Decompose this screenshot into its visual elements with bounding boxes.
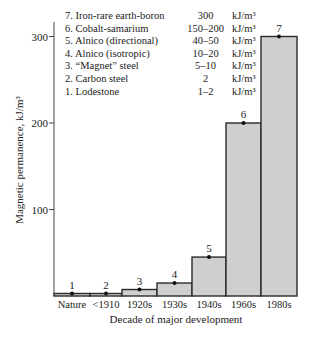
x-tick-label: 1940s [196, 299, 221, 310]
legend-item: 5. Alnico (directional) 40–50 kJ/m³ [65, 35, 272, 48]
bar-number-label: 2 [103, 279, 109, 291]
bar-number-label: 3 [137, 275, 143, 287]
bar-marker [207, 255, 211, 259]
bar [226, 123, 261, 296]
legend-label: 6. Cobalt-samarium [65, 23, 179, 36]
bar-marker [70, 292, 74, 296]
legend-item: 6. Cobalt-samarium 150–200 kJ/m³ [65, 23, 272, 36]
legend-unit: kJ/m³ [232, 73, 272, 86]
bar [192, 257, 226, 296]
legend-item: 4. Alnico (isotropic) 10–20 kJ/m³ [65, 48, 272, 61]
legend-item: 3. “Magnet” steel 5–10 kJ/m³ [65, 60, 272, 73]
legend-unit: kJ/m³ [232, 60, 272, 73]
x-tick-label: 1920s [127, 299, 152, 310]
x-tick-label: 1930s [162, 299, 187, 310]
legend-label: 1. Lodestone [65, 86, 179, 99]
legend-label: 4. Alnico (isotropic) [65, 48, 179, 61]
bar-number-label: 6 [241, 108, 247, 120]
bar-number-label: 5 [206, 242, 212, 254]
bar-marker [138, 288, 142, 292]
legend-item: 1. Lodestone 1–2 kJ/m³ [65, 86, 272, 99]
legend-unit: kJ/m³ [232, 35, 272, 48]
bar-marker [277, 35, 281, 39]
x-axis-label: Decade of major development [110, 313, 243, 325]
legend-range: 300 [179, 10, 232, 23]
bar-number-label: 7 [276, 22, 282, 34]
legend-range: 40–50 [179, 35, 232, 48]
legend-unit: kJ/m³ [232, 10, 272, 23]
legend-unit: kJ/m³ [232, 23, 272, 36]
x-tick-label: 1960s [231, 299, 256, 310]
bar-number-label: 1 [69, 279, 75, 291]
y-tick-label: 100 [32, 204, 49, 216]
x-tick-label: 1980s [266, 299, 291, 310]
legend-range: 5–10 [179, 60, 232, 73]
legend-item: 7. Iron-rare earth-boron 300 kJ/m³ [65, 10, 272, 23]
bar-number-label: 4 [172, 268, 178, 280]
legend-label: 7. Iron-rare earth-boron [65, 10, 179, 23]
legend-label: 3. “Magnet” steel [65, 60, 179, 73]
legend-range: 150–200 [179, 23, 232, 36]
legend-label: 2. Carbon steel [65, 73, 179, 86]
legend-range: 1–2 [179, 86, 232, 99]
legend-range: 10–20 [179, 48, 232, 61]
legend-item: 2. Carbon steel 2 kJ/m³ [65, 73, 272, 86]
legend-unit: kJ/m³ [232, 86, 272, 99]
legend-range: 2 [179, 73, 232, 86]
y-tick-label: 300 [32, 31, 49, 43]
y-axis-label: Magnetic permanence, kJ/m³ [13, 96, 25, 224]
bar-marker [242, 121, 246, 125]
x-tick-label: <1910 [93, 299, 120, 310]
legend-label: 5. Alnico (directional) [65, 35, 179, 48]
bar-marker [173, 281, 177, 285]
legend-unit: kJ/m³ [232, 48, 272, 61]
bar-marker [104, 292, 108, 296]
y-tick-label: 200 [32, 117, 49, 129]
legend: 7. Iron-rare earth-boron 300 kJ/m³ 6. Co… [65, 10, 272, 98]
x-tick-label: Nature [58, 299, 87, 310]
